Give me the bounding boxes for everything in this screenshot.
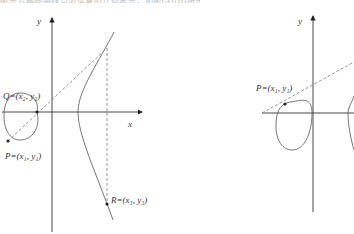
label-R: R=(x₃, y₃) xyxy=(110,195,147,205)
point-P xyxy=(6,139,9,142)
point-Q xyxy=(35,110,38,113)
right-panel: y P=(x₁, y₁) xyxy=(255,16,354,212)
label-Q: Q=(x₂, y₂) xyxy=(3,91,40,101)
point-R xyxy=(105,202,108,205)
label-P: P=(x₁, y₁) xyxy=(255,83,292,93)
point-P xyxy=(283,102,286,105)
label-P: P=(x₁, y₁) xyxy=(4,151,41,161)
elliptic-curve-diagram: y x Q=(x₂, y₂) P=(x₁, y₁) R=(x₃, y₃) y P… xyxy=(0,0,354,234)
left-panel: y x Q=(x₂, y₂) P=(x₁, y₁) R=(x₃, y₃) xyxy=(2,16,147,232)
y-axis-label: y xyxy=(297,16,302,26)
curve-branch xyxy=(348,96,354,150)
curve-branch xyxy=(78,32,114,220)
x-axis-label: x xyxy=(127,119,132,129)
y-axis-label: y xyxy=(36,16,41,26)
curve-loop xyxy=(276,100,312,150)
